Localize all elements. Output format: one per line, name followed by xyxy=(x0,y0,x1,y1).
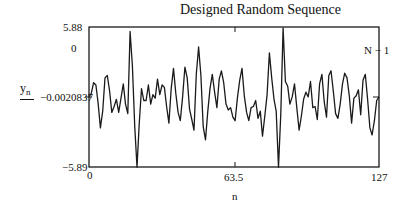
line-chart xyxy=(0,0,409,202)
plot-frame xyxy=(89,27,379,167)
series-y-n-line xyxy=(89,28,379,167)
